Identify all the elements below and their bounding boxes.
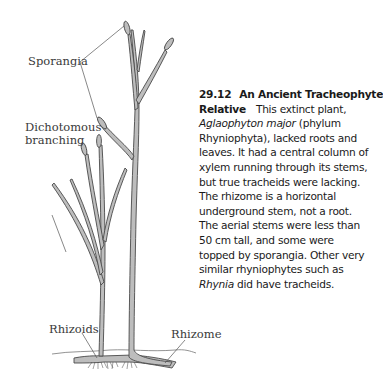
genus-name: Rhynia bbox=[199, 278, 234, 290]
figure-number: 29.12 bbox=[199, 88, 231, 100]
caption-text: The aerial stems were less than bbox=[199, 218, 373, 233]
caption-text: The rhizome is a horizontal bbox=[199, 189, 373, 204]
caption-text: 50 cm tall, and some were bbox=[199, 233, 373, 248]
caption-text: xylem running through its stems, bbox=[199, 160, 373, 175]
figure-caption: 29.12An Ancient Tracheophyte RelativeThi… bbox=[199, 87, 373, 291]
leader-lines bbox=[52, 26, 185, 363]
caption-text: underground stem, not a root. bbox=[199, 204, 373, 219]
rhizome-label: Rhizome bbox=[171, 328, 221, 341]
caption-text: but true tracheids were lacking. bbox=[199, 175, 373, 190]
rhizoids-label: Rhizoids bbox=[49, 323, 99, 336]
caption-text: leaves. It had a central column of bbox=[199, 145, 373, 160]
species-name: Aglaophyton major bbox=[199, 117, 296, 129]
caption-text: Rhyniophyta), lacked roots and bbox=[199, 131, 373, 146]
caption-title: An Ancient Tracheophyte bbox=[239, 88, 383, 100]
caption-text: similar rhyniophytes such as bbox=[199, 262, 373, 277]
sporangia-label: Sporangia bbox=[28, 55, 88, 68]
dichotomous-label-line2: branching bbox=[25, 134, 84, 147]
caption-text: topped by sporangia. Other very bbox=[199, 248, 373, 263]
caption-text: did have tracheids. bbox=[234, 278, 334, 290]
caption-text: (phylum bbox=[296, 117, 341, 129]
caption-text: This extinct plant, bbox=[256, 103, 346, 115]
main-stem bbox=[96, 21, 175, 366]
caption-title-cont: Relative bbox=[199, 103, 246, 115]
